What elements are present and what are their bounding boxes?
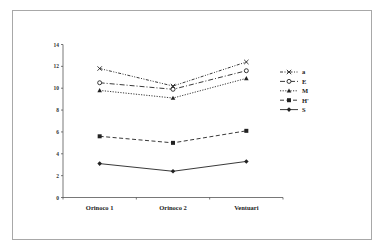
legend-label: M (302, 87, 308, 94)
y-tick-label: 8 (56, 107, 59, 113)
legend-item: E (280, 78, 306, 85)
legend-label: H' (302, 97, 309, 104)
legend-item: H' (280, 97, 309, 104)
series-layer (97, 60, 248, 174)
series-e (98, 69, 249, 92)
x-marker-icon (244, 60, 248, 64)
triangle-marker-icon (171, 96, 176, 100)
diamond-marker-icon (171, 169, 176, 174)
legend-diamond-icon (287, 107, 292, 112)
y-tick-label: 12 (54, 63, 60, 69)
legend-square-icon (287, 98, 291, 102)
y-tick-label: 10 (54, 85, 60, 91)
legend-label: S (302, 106, 306, 113)
legend: aEMH'S (280, 68, 309, 113)
open-circle-marker-icon (171, 87, 175, 91)
diamond-marker-icon (97, 161, 102, 166)
legend-open-circle-icon (287, 79, 291, 83)
square-marker-icon (171, 141, 175, 145)
legend-label: a (302, 68, 306, 75)
y-axis: 02468101214 (54, 42, 64, 201)
x-category-label: Orinoco 2 (159, 204, 187, 211)
series-s (97, 159, 248, 173)
y-tick-label: 0 (56, 195, 59, 201)
open-circle-marker-icon (244, 69, 248, 73)
series-line (100, 62, 247, 86)
open-circle-marker-icon (98, 81, 102, 85)
triangle-marker-icon (97, 88, 102, 92)
x-axis: Orinoco 1Orinoco 2Ventuari (63, 198, 283, 211)
x-category-label: Ventuari (234, 204, 259, 211)
diamond-marker-icon (244, 159, 249, 164)
triangle-marker-icon (244, 76, 249, 80)
y-tick-label: 4 (56, 151, 59, 157)
y-tick-label: 14 (54, 42, 60, 48)
square-marker-icon (244, 129, 248, 133)
y-tick-label: 6 (56, 129, 59, 135)
y-tick-label: 2 (56, 173, 59, 179)
legend-item: a (280, 68, 306, 75)
legend-item: M (280, 87, 308, 94)
x-category-label: Orinoco 1 (86, 204, 114, 211)
legend-item: S (280, 106, 306, 113)
square-marker-icon (98, 134, 102, 138)
series-h (98, 129, 249, 145)
legend-label: E (302, 78, 306, 85)
line-chart: 02468101214 Orinoco 1Orinoco 2Ventuari a… (0, 0, 382, 247)
